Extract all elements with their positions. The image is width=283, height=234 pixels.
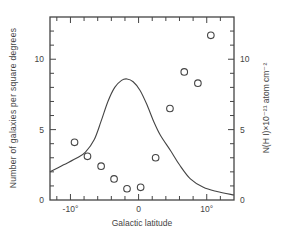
y-tick-label-left: 0 [39,195,44,205]
y-tick-label-right: 5 [240,125,245,135]
x-tick-label: 0 [136,204,141,214]
data-point [98,163,105,170]
y-tick-label-right: 10 [240,54,250,64]
data-point [195,80,202,87]
x-tick-label: -10° [63,204,79,214]
y-tick-label-left: 5 [39,125,44,135]
data-point [208,32,215,39]
data-point [84,153,91,160]
y-axis-label-right: N(H I)×10⁻²¹ atom cm⁻² [261,63,271,154]
data-point [137,184,144,191]
x-axis-label: Galactic latitude [112,218,172,228]
chart-canvas: -10°010°05100510 [0,0,283,234]
data-point [152,154,159,161]
axis-ticks [50,17,234,200]
galaxy-count-points [71,32,214,192]
y-tick-label-left: 10 [35,54,45,64]
data-point [181,69,188,76]
hi-column-density-curve [50,79,234,195]
data-point [167,105,174,112]
y-tick-label-right: 0 [240,195,245,205]
data-point [71,139,78,146]
y-axis-label-left: Number of galaxies per square degrees [8,28,18,188]
plot-frame [50,17,234,200]
data-point [111,176,118,183]
data-point [124,185,131,192]
x-tick-label: 10° [200,204,213,214]
